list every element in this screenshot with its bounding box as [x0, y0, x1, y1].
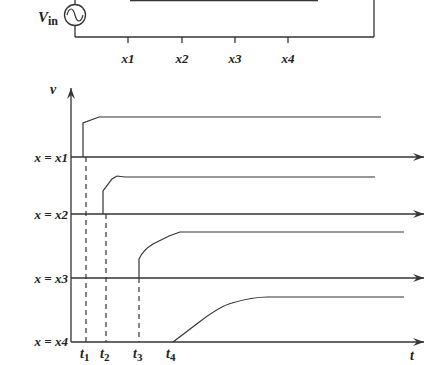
time-label-t3: t3: [133, 346, 143, 363]
source-label: Vin: [38, 9, 58, 28]
time-label-t2: t2: [100, 346, 110, 363]
row-label-x4: x = x4: [34, 334, 69, 349]
ac-source-icon: [65, 5, 86, 26]
voltage-time-plot: v x = x1 x = x2 x = x3 x = x4 t1 t2 t3 t…: [34, 82, 424, 363]
row-label-x1: x = x1: [34, 150, 68, 165]
row-label-x3: x = x3: [34, 271, 69, 286]
waveform-x1: [83, 117, 381, 157]
time-label-t4: t4: [166, 346, 176, 363]
waveform-x4: [173, 297, 404, 342]
position-label-x1: x1: [121, 51, 135, 66]
y-axis-label: v: [50, 82, 57, 97]
x-axis-label: t: [410, 348, 415, 363]
position-label-x3: x3: [228, 51, 243, 66]
row-label-x2: x = x2: [34, 207, 69, 222]
position-label-x4: x4: [281, 51, 296, 66]
time-label-t1: t1: [80, 346, 89, 363]
transmission-line-diagram: Vin x1 x2 x3 x4 v x = x1 x = x2 x = x3 x…: [0, 0, 447, 365]
position-label-x2: x2: [175, 51, 190, 66]
waveform-x2: [103, 176, 375, 214]
waveform-x3: [139, 232, 404, 278]
circuit: Vin x1 x2 x3 x4: [38, 0, 374, 66]
